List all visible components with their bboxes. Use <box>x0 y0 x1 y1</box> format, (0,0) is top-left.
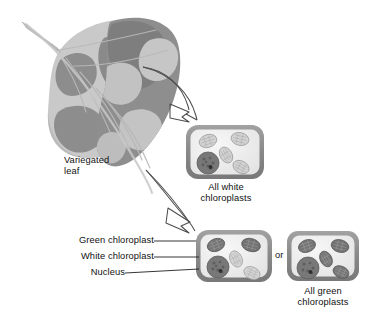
mixed-chloroplast-cell <box>196 230 272 282</box>
green-cell-caption-line2: chloroplasts <box>282 297 364 309</box>
callout-white-chloroplast-label: White chloroplast <box>44 251 154 263</box>
diagram-graphics <box>0 0 370 311</box>
variegated-leaf <box>22 5 210 193</box>
callout-nucleus-label: Nucleus <box>44 267 125 279</box>
nucleus <box>297 257 319 279</box>
green-cell-caption-line1: All green <box>282 286 364 298</box>
or-connector-label: or <box>275 250 283 260</box>
all-white-chloroplast-cell <box>186 125 264 179</box>
callout-green-chloroplast-label: Green chloroplast <box>44 235 154 247</box>
leaf-label-line2: leaf <box>64 166 79 178</box>
nucleus <box>197 152 219 174</box>
white-cell-caption-line2: chloroplasts <box>180 193 272 205</box>
diagram-canvas: Variegated leaf All white chloroplasts G… <box>0 0 370 311</box>
all-green-chloroplast-cell <box>287 231 359 281</box>
nucleus <box>207 256 229 278</box>
white-cell-caption-line1: All white <box>180 182 272 194</box>
leaf-label-line1: Variegated <box>64 155 109 167</box>
